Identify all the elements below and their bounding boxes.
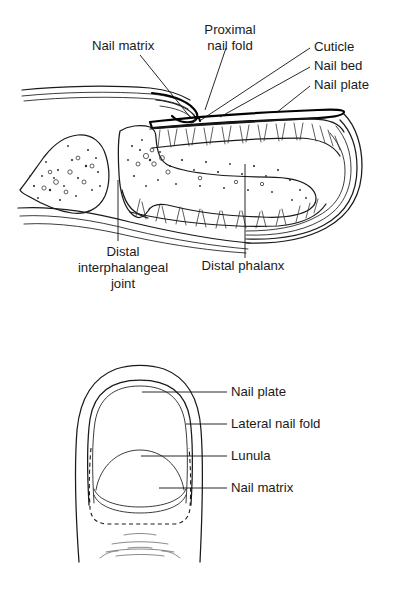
label-nail-plate-sagittal: Nail plate — [314, 77, 369, 92]
nail-bed-ridges-upper — [158, 123, 340, 150]
bone-stipple-texture — [29, 139, 307, 201]
label-distal-interphalangeal-joint-line1: Distal — [107, 244, 140, 259]
label-lunula: Lunula — [231, 448, 271, 463]
nail-bed-upper — [150, 119, 344, 156]
label-cuticle: Cuticle — [314, 39, 354, 54]
leader-nail-bed — [220, 67, 310, 117]
nail-bed-lower — [122, 190, 326, 228]
lunula-shape — [94, 450, 186, 513]
panel-dorsal-view: Nail plate Lateral nail fold Lunula Nail… — [76, 365, 321, 562]
label-nail-bed: Nail bed — [314, 58, 362, 73]
label-nail-matrix-dorsal: Nail matrix — [231, 480, 294, 495]
figure-canvas: Nail matrix Proximal nail fold Cuticle N… — [0, 0, 398, 592]
labels-dorsal: Nail plate Lateral nail fold Lunula Nail… — [231, 384, 320, 495]
dorsal-skin-surface — [22, 86, 192, 109]
fingertip-contour — [246, 114, 362, 243]
proximal-bone-head — [20, 135, 109, 213]
nail-anatomy-figure: Nail matrix Proximal nail fold Cuticle N… — [0, 0, 398, 592]
label-nail-matrix: Nail matrix — [92, 38, 155, 53]
leader-lines-dorsal — [141, 392, 227, 488]
finger-outline — [76, 365, 203, 562]
leader-cuticle — [201, 48, 310, 120]
panel-sagittal-section: Nail matrix Proximal nail fold Cuticle N… — [18, 22, 369, 291]
label-proximal-nail-fold-line1: Proximal — [204, 22, 255, 37]
label-distal-interphalangeal-joint-line2: interphalangeal — [78, 260, 168, 275]
leader-nail-plate — [276, 86, 310, 113]
label-lateral-nail-fold: Lateral nail fold — [231, 416, 320, 431]
leader-proximal-nail-fold — [205, 48, 226, 110]
label-nail-plate-dorsal: Nail plate — [231, 384, 286, 399]
labels-sagittal: Nail matrix Proximal nail fold Cuticle N… — [78, 22, 369, 291]
label-distal-phalanx: Distal phalanx — [202, 258, 285, 273]
nail-plate-outline — [88, 380, 193, 505]
leader-nail-matrix — [140, 55, 190, 117]
skin-wrinkle-lines — [100, 534, 180, 559]
label-distal-interphalangeal-joint-line3: joint — [110, 276, 136, 291]
label-proximal-nail-fold-line2: nail fold — [207, 38, 252, 53]
